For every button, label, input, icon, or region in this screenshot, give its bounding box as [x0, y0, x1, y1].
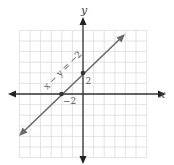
x-axis-label: x [159, 88, 166, 101]
coordinate-plane: y x 2 −2 x − y = −2 [0, 0, 174, 165]
y-axis-label: y [80, 4, 88, 17]
y-axis-down-arrow-icon [80, 156, 87, 164]
x-axis-left-arrow-icon [8, 91, 16, 98]
y-axis [80, 17, 87, 164]
y-intercept-label: 2 [86, 76, 92, 86]
x-axis [8, 91, 166, 98]
y-axis-up-arrow-icon [80, 17, 87, 25]
equation-label: x − y = −2 [41, 49, 83, 91]
point-y-intercept [81, 71, 86, 76]
x-intercept-label: −2 [63, 96, 76, 106]
